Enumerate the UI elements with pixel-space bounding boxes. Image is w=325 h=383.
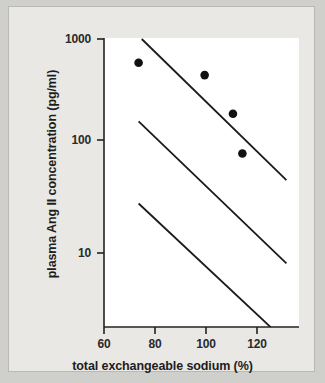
y-axis-label: plasma Ang II concentration (pg/ml) — [45, 49, 59, 299]
figure-frame: 1000 100 10 60 80 100 120 plasma Ang II … — [8, 6, 315, 372]
xtick-label-60: 60 — [84, 337, 124, 351]
xtick-label-120: 120 — [237, 337, 277, 351]
ytick-label-1000: 1000 — [51, 32, 91, 46]
xtick-label-100: 100 — [186, 337, 226, 351]
x-axis-label: total exchangeable sodium (%) — [9, 359, 316, 373]
xtick-label-80: 80 — [135, 337, 175, 351]
